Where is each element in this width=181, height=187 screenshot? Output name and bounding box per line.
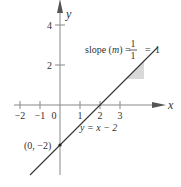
slope-equals: = <box>145 44 151 55</box>
x-axis-arrow <box>152 102 166 108</box>
y-tick-label: 4 <box>47 20 52 31</box>
x-tick-label: 0 <box>52 110 57 121</box>
x-tick-label: 1 <box>78 110 83 121</box>
x-tick-label: 3 <box>118 110 123 121</box>
equation-label: y = x − 2 <box>79 122 117 133</box>
y-axis-label: y <box>65 7 72 21</box>
x-tick-label: 2 <box>98 110 103 121</box>
slope-denominator: 1 <box>131 50 136 61</box>
slope-prefix: slope (m) = <box>85 44 131 56</box>
intercept-point-label: (0, −2) <box>24 140 51 152</box>
slope-numerator: 1 <box>131 38 136 49</box>
coordinate-plot: slope (m) = 1 1 = 1 y = x − 2 (0, −2) x … <box>0 0 181 187</box>
x-tick-label: −1 <box>35 110 46 121</box>
x-tick-label: −2 <box>15 110 26 121</box>
y-axis-arrow <box>57 0 63 13</box>
intercept-point <box>58 143 61 146</box>
x-axis-label: x <box>167 98 174 112</box>
y-tick-label: 2 <box>47 60 52 71</box>
slope-result: 1 <box>155 44 160 55</box>
